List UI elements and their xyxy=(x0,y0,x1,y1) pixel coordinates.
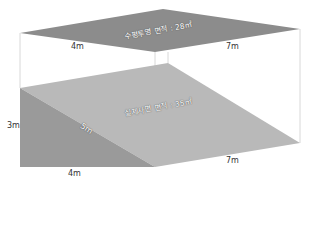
bottom-right-label: 7m xyxy=(226,156,239,165)
top-edge-right-label: 7m xyxy=(226,42,239,51)
height-label: 3m xyxy=(7,121,20,130)
top-edge-left-label: 4m xyxy=(71,42,84,51)
bottom-left-label: 4m xyxy=(68,169,81,178)
